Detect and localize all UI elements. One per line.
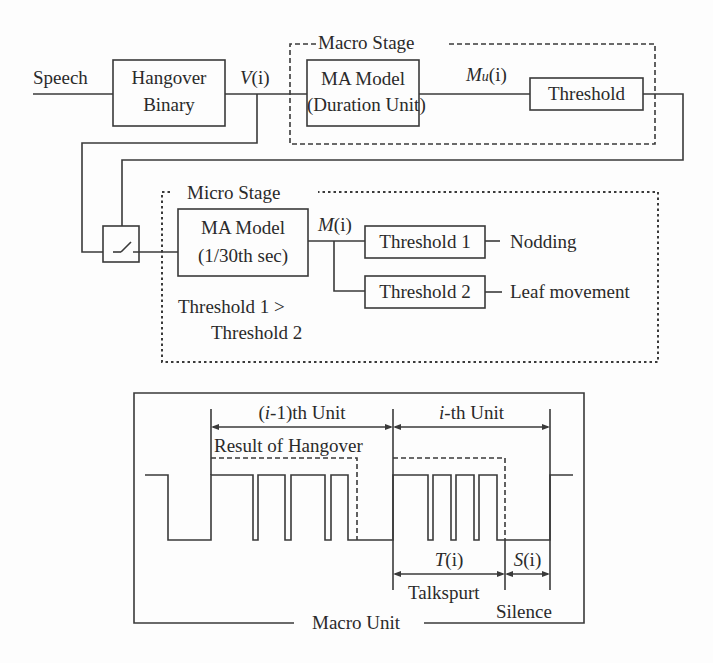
arrowhead xyxy=(393,424,401,430)
threshold-note-line1: Threshold 1 > xyxy=(178,296,285,318)
arrowhead xyxy=(505,571,513,577)
macro-ma-line2: (Duration Unit) xyxy=(307,94,419,116)
hangover-box-line2: Binary xyxy=(113,94,225,116)
m-signal-label: M(i) xyxy=(318,214,352,236)
m-branch-wire xyxy=(334,241,365,291)
arrowhead xyxy=(211,424,219,430)
v-signal-name: V xyxy=(240,67,252,88)
curr-unit-suffix: -th Unit xyxy=(444,402,504,423)
arrowhead xyxy=(385,424,393,430)
macro-unit-label: Macro Unit xyxy=(312,612,400,634)
arrowhead xyxy=(542,424,550,430)
t-name: T xyxy=(435,549,446,570)
micro-stage-title: Micro Stage xyxy=(187,182,280,204)
silence-label: Silence xyxy=(496,601,552,623)
s-name: S xyxy=(514,549,524,570)
mu-name: M xyxy=(466,64,482,85)
speech-input-label: Speech xyxy=(33,67,88,89)
macro-threshold-label: Threshold xyxy=(530,83,643,105)
arrowhead xyxy=(393,571,401,577)
hangover-result-curr xyxy=(393,458,505,540)
m-arg: (i) xyxy=(334,214,352,235)
mu-arg: (i) xyxy=(489,64,507,85)
mu-signal-label: Mu(i) xyxy=(466,64,507,88)
hangover-box-line1: Hangover xyxy=(113,67,225,89)
silence-var-label: S(i) xyxy=(505,549,550,571)
leaf-movement-label: Leaf movement xyxy=(510,281,630,303)
macro-stage-title: Macro Stage xyxy=(318,32,415,54)
talkspurt-var-label: T(i) xyxy=(393,549,505,571)
switch-box xyxy=(103,226,139,262)
s-arg: (i) xyxy=(523,549,541,570)
arrowhead xyxy=(497,571,505,577)
mu-subscript: u xyxy=(482,69,489,84)
m-name: M xyxy=(318,214,334,235)
curr-unit-label: i-th Unit xyxy=(393,402,550,424)
threshold2-label: Threshold 2 xyxy=(365,281,485,303)
v-signal-arg: (i) xyxy=(252,67,270,88)
v-signal-label: V(i) xyxy=(240,67,270,89)
macro-ma-line1: MA Model xyxy=(307,68,419,90)
hangover-result-prev xyxy=(211,458,357,540)
t-arg: (i) xyxy=(445,549,463,570)
prev-unit-label: (i-1)th Unit xyxy=(211,402,393,424)
micro-ma-line1: MA Model xyxy=(178,217,308,239)
speech-waveform xyxy=(145,475,573,540)
talkspurt-label: Talkspurt xyxy=(408,582,480,604)
nodding-label: Nodding xyxy=(510,231,577,253)
threshold1-label: Threshold 1 xyxy=(365,231,485,253)
hangover-result-label: Result of Hangover xyxy=(214,435,363,457)
prev-unit-suffix: -1)th Unit xyxy=(270,402,345,423)
arrowhead xyxy=(542,571,550,577)
threshold-note-line2: Threshold 2 xyxy=(211,322,302,344)
micro-ma-line2: (1/30th sec) xyxy=(178,245,308,267)
